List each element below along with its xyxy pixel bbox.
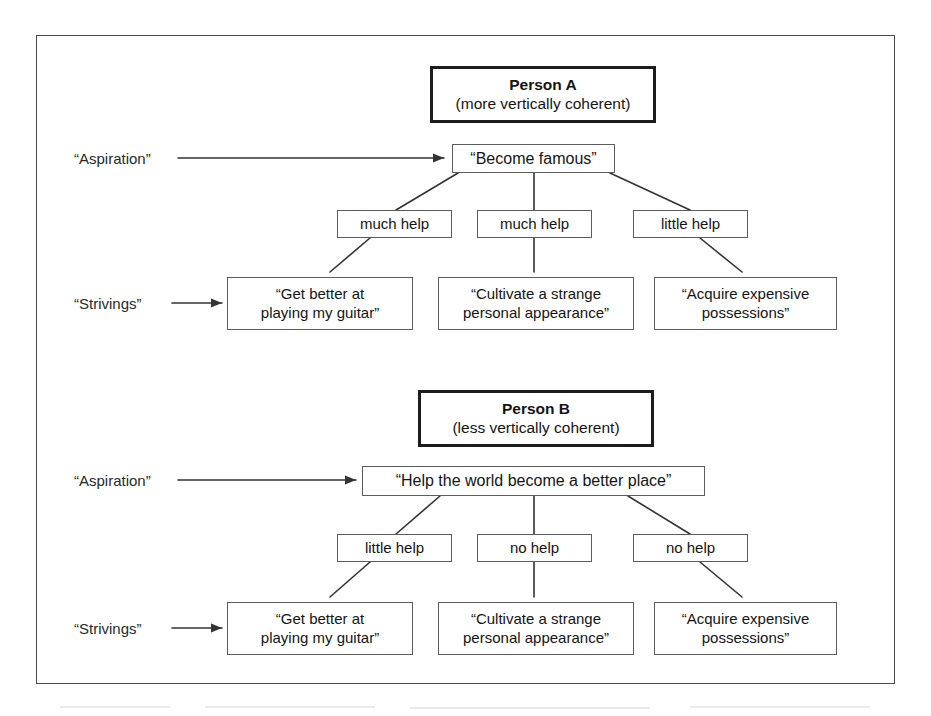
scan-artifact <box>205 706 375 708</box>
person-b-aspiration: “Help the world become a better place” <box>362 466 705 496</box>
person-b-striving-2-line2: personal appearance” <box>463 629 609 647</box>
row-label-aspiration-a: “Aspiration” <box>74 150 151 167</box>
person-b-link-label-1: little help <box>337 534 452 562</box>
person-a-striving-1-line2: playing my guitar” <box>261 304 379 322</box>
person-b-striving-1-line1: “Get better at <box>276 610 364 628</box>
person-a-aspiration: “Become famous” <box>452 144 615 173</box>
person-b-subtitle: (less vertically coherent) <box>452 419 619 438</box>
person-b-striving-2-line1: “Cultivate a strange <box>471 610 601 628</box>
person-a-title: Person A <box>509 76 576 95</box>
person-a-header: Person A (more vertically coherent) <box>430 66 656 123</box>
row-label-aspiration-b: “Aspiration” <box>74 472 151 489</box>
figure-root: Person A (more vertically coherent) “Asp… <box>0 0 931 716</box>
person-a-link-label-1: much help <box>337 210 452 238</box>
person-b-link-label-3: no help <box>633 534 748 562</box>
person-b-title: Person B <box>502 400 570 419</box>
person-a-striving-1-line1: “Get better at <box>276 285 364 303</box>
person-b-striving-2: “Cultivate a strange personal appearance… <box>438 602 634 655</box>
person-b-striving-3-line1: “Acquire expensive <box>682 610 810 628</box>
person-a-striving-3-line1: “Acquire expensive <box>682 285 810 303</box>
row-label-strivings-a: “Strivings” <box>74 295 142 312</box>
person-b-striving-3: “Acquire expensive possessions” <box>654 602 837 655</box>
person-a-link-label-3: little help <box>633 210 748 238</box>
diagram-outer-frame <box>36 35 895 684</box>
person-a-subtitle: (more vertically coherent) <box>456 95 631 114</box>
person-b-striving-1-line2: playing my guitar” <box>261 629 379 647</box>
person-a-striving-3-line2: possessions” <box>702 304 790 322</box>
scan-artifact <box>410 707 650 709</box>
person-a-striving-2-line1: “Cultivate a strange <box>471 285 601 303</box>
scan-artifact <box>690 706 870 708</box>
scan-artifact <box>60 706 170 708</box>
person-a-striving-3: “Acquire expensive possessions” <box>654 277 837 330</box>
person-b-header: Person B (less vertically coherent) <box>418 390 654 447</box>
person-a-striving-2-line2: personal appearance” <box>463 304 609 322</box>
person-b-link-label-2: no help <box>477 534 592 562</box>
person-b-striving-3-line2: possessions” <box>702 629 790 647</box>
row-label-strivings-b: “Strivings” <box>74 620 142 637</box>
person-b-striving-1: “Get better at playing my guitar” <box>227 602 413 655</box>
person-a-striving-1: “Get better at playing my guitar” <box>227 277 413 330</box>
person-a-striving-2: “Cultivate a strange personal appearance… <box>438 277 634 330</box>
person-a-link-label-2: much help <box>477 210 592 238</box>
